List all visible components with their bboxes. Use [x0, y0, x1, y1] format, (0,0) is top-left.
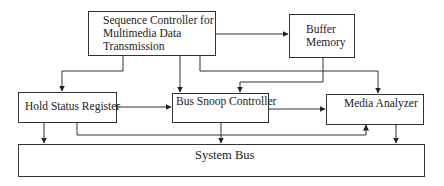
- buffer-memory-line-1: Buffer: [306, 23, 336, 36]
- system-bus-label: System Bus: [195, 149, 254, 162]
- bus-snoop-controller-label: Bus Snoop Controller: [176, 95, 276, 108]
- buffer-memory-line-2: Memory: [306, 36, 346, 49]
- node-sequence-controller: Sequence Controller for Multimedia Data …: [88, 11, 216, 56]
- node-hold-status-register: Hold Status Register: [18, 92, 117, 123]
- node-system-bus: System Bus: [18, 144, 425, 177]
- sequence-controller-line-1: Sequence Controller for: [103, 14, 214, 27]
- node-buffer-memory: Buffer Memory: [289, 14, 355, 58]
- hold-status-register-label: Hold Status Register: [25, 100, 120, 113]
- node-bus-snoop-controller: Bus Snoop Controller: [172, 93, 269, 123]
- sequence-controller-line-2: Multimedia Data: [103, 27, 181, 40]
- edge-sc-ma: [200, 56, 378, 93]
- media-analyzer-label: Media Analyzer: [344, 97, 418, 110]
- sequence-controller-line-3: Transmission: [103, 40, 165, 53]
- edge-buffer-bsc: [240, 58, 323, 92]
- node-media-analyzer: Media Analyzer: [326, 94, 424, 125]
- edge-sc-hsr: [62, 56, 123, 91]
